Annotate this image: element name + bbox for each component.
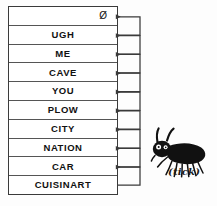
stack-cell-label: UGH <box>52 30 75 40</box>
stack-cell-you: YOU <box>9 82 117 101</box>
stack-cell-label: ME <box>55 49 70 59</box>
stack-cell-cave: CAVE <box>9 63 117 82</box>
stack-cell-nation: NATION <box>9 139 117 158</box>
stack-cell-me: ME <box>9 45 117 64</box>
stack-cell-label: YOU <box>52 86 74 96</box>
stack-cell-label: NATION <box>43 143 82 153</box>
pointer-wire <box>116 36 140 54</box>
pointer-wire <box>116 111 140 129</box>
tick-icon <box>146 126 214 188</box>
pointer-wire <box>116 167 140 185</box>
pointer-wire <box>116 130 140 148</box>
stack-cell-label: CITY <box>51 124 75 134</box>
stack-cell-plow: PLOW <box>9 101 117 120</box>
stack-cell-cuisinart: CUISINART <box>9 176 117 194</box>
tick-caption: (tick) <box>168 166 200 177</box>
stack-cell-ugh: UGH <box>9 26 117 45</box>
pointer-wire <box>116 73 140 91</box>
stack-cell-car: CAR <box>9 157 117 176</box>
pointer-wire-group <box>116 17 140 185</box>
word-stack: Ø UGH ME CAVE YOU PLOW CITY NATION CAR C… <box>8 6 118 195</box>
stack-cell-label: CAR <box>52 162 74 172</box>
stack-cell-city: CITY <box>9 120 117 139</box>
pointer-wire <box>116 148 140 166</box>
stack-cell-label: Ø <box>99 11 107 21</box>
pointer-wire <box>116 92 140 110</box>
pointer-wire <box>116 17 140 35</box>
stack-cell-label: CUISINART <box>35 180 92 190</box>
pointer-wire <box>116 54 140 72</box>
stack-cell-null: Ø <box>9 7 117 26</box>
stack-cell-label: CAVE <box>49 68 77 78</box>
figure-canvas: Ø UGH ME CAVE YOU PLOW CITY NATION CAR C… <box>0 0 217 206</box>
stack-cell-label: PLOW <box>48 105 79 115</box>
